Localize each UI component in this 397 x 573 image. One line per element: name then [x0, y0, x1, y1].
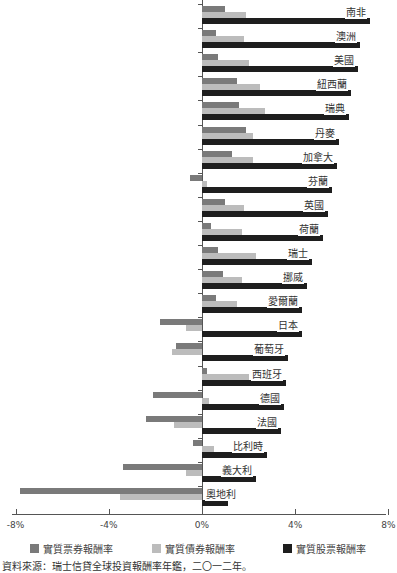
category-tick: [198, 341, 202, 342]
bar-bond: [172, 349, 202, 355]
legend-swatch: [152, 544, 161, 553]
category-tick: [198, 221, 202, 222]
bar-bond: [120, 494, 202, 500]
source-note: 資料來源：瑞士信貸全球投資報酬率年鑑，二〇一二年。: [2, 558, 252, 573]
bar-money: [153, 392, 202, 398]
x-axis-line: [12, 514, 386, 515]
category-label: 澳洲: [335, 31, 357, 43]
category-tick: [198, 173, 202, 174]
x-axis-tick: [295, 509, 296, 515]
legend-label: 實質債券報酬率: [165, 541, 235, 556]
bar-bond: [186, 470, 202, 476]
legend-item-money-market: 實質票券報酬率: [30, 541, 113, 556]
category-tick: [198, 486, 202, 487]
x-axis-tick-label: 0%: [195, 520, 209, 530]
category-tick: [198, 438, 202, 439]
bar-money: [193, 440, 202, 446]
category-tick: [198, 28, 202, 29]
x-axis-tick: [202, 509, 203, 515]
category-tick: [198, 197, 202, 198]
legend-label: 實質股票報酬率: [296, 541, 366, 556]
category-label: 比利時: [232, 441, 264, 453]
bar-bond: [174, 422, 202, 428]
category-tick: [198, 462, 202, 463]
bar-money: [190, 175, 202, 181]
x-axis-tick: [388, 509, 389, 515]
legend-label: 實質票券報酬率: [43, 541, 113, 556]
category-tick: [198, 269, 202, 270]
category-label: 愛爾蘭: [267, 296, 299, 308]
category-tick: [198, 100, 202, 101]
category-tick: [198, 125, 202, 126]
category-label: 紐西蘭: [316, 79, 348, 91]
category-label: 瑞士: [287, 248, 309, 260]
category-label: 葡萄牙: [253, 344, 285, 356]
x-axis-tick-label: 4%: [288, 520, 302, 530]
category-label: 加拿大: [302, 152, 334, 164]
category-label: 荷蘭: [298, 224, 320, 236]
bar-bond: [186, 325, 202, 331]
category-label: 丹麥: [314, 128, 336, 140]
category-label: 南非: [345, 7, 367, 19]
x-axis-tick-label: -8%: [7, 520, 25, 530]
legend-swatch: [283, 544, 292, 553]
bar-chart: -8%-4%0%4%8% 南非澳洲美國紐西蘭瑞典丹麥加拿大芬蘭英國荷蘭瑞士挪威愛…: [0, 0, 397, 573]
category-label: 德國: [259, 393, 281, 405]
category-label: 西班牙: [251, 369, 283, 381]
x-axis-tick-label: 8%: [381, 520, 395, 530]
category-tick: [198, 245, 202, 246]
legend-item-bonds: 實質債券報酬率: [152, 541, 235, 556]
legend-swatch: [30, 544, 39, 553]
x-axis-tick: [16, 509, 17, 515]
legend: 實質票券報酬率 實質債券報酬率 實質股票報酬率: [0, 541, 397, 555]
x-axis-tick: [109, 509, 110, 515]
category-tick: [198, 149, 202, 150]
category-tick: [198, 4, 202, 5]
category-tick: [198, 317, 202, 318]
category-label: 義大利: [221, 465, 253, 477]
category-label: 挪威: [282, 272, 304, 284]
category-label: 瑞典: [324, 103, 346, 115]
category-label: 美國: [333, 55, 355, 67]
category-tick: [198, 76, 202, 77]
category-tick: [198, 52, 202, 53]
category-label: 法國: [256, 417, 278, 429]
category-label: 芬蘭: [307, 176, 329, 188]
category-tick: [198, 390, 202, 391]
x-axis-tick-label: -4%: [100, 520, 118, 530]
legend-item-stocks: 實質股票報酬率: [283, 541, 366, 556]
category-tick: [198, 366, 202, 367]
category-label: 英國: [303, 200, 325, 212]
category-tick: [198, 414, 202, 415]
category-label: 奧地利: [205, 489, 237, 501]
category-label: 日本: [277, 320, 299, 332]
category-tick: [198, 293, 202, 294]
